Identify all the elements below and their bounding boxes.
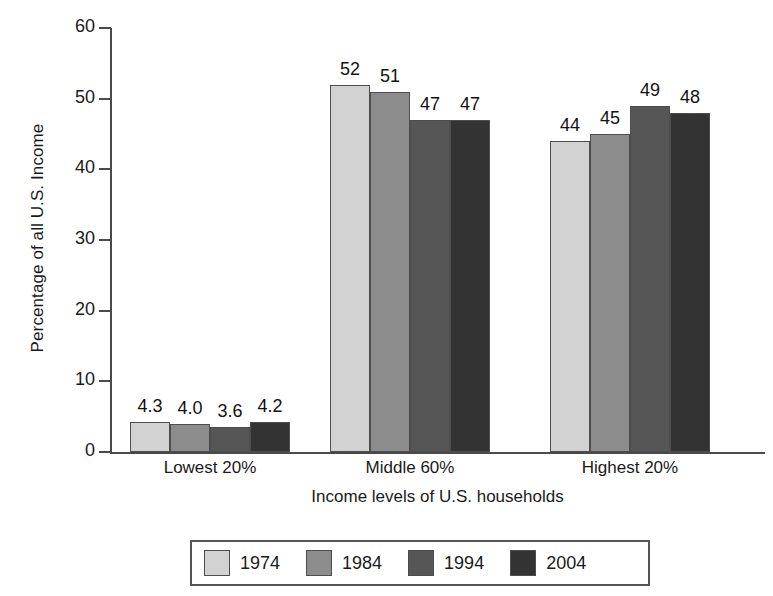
bar <box>630 106 670 452</box>
y-axis-tick <box>99 168 111 170</box>
y-axis-tick-label: 40 <box>35 157 95 178</box>
y-axis-tick-label: 0 <box>35 440 95 461</box>
legend-label: 1994 <box>444 553 484 574</box>
y-axis-tick-label: 30 <box>35 228 95 249</box>
legend-item: 1984 <box>306 550 382 576</box>
y-axis-tick <box>99 380 111 382</box>
bar <box>130 422 170 452</box>
y-axis-tick-label: 10 <box>35 369 95 390</box>
bar <box>590 134 630 452</box>
x-axis-line <box>110 452 765 454</box>
category-label: Lowest 20% <box>120 458 300 478</box>
bar-chart: Percentage of all U.S. Income 0102030405… <box>0 0 773 596</box>
y-axis-tick-label: 60 <box>35 16 95 37</box>
y-axis-tick <box>99 98 111 100</box>
y-axis-tick-label: 50 <box>35 87 95 108</box>
legend-label: 1974 <box>240 553 280 574</box>
bar <box>370 92 410 452</box>
bar <box>170 424 210 452</box>
legend-swatch <box>408 550 434 576</box>
bar <box>410 120 450 452</box>
bar-value-label: 47 <box>444 94 496 115</box>
x-axis-title: Income levels of U.S. households <box>110 487 765 507</box>
y-axis-tick <box>99 310 111 312</box>
bar <box>450 120 490 452</box>
legend-swatch <box>204 550 230 576</box>
bar-value-label: 51 <box>364 66 416 87</box>
bar-value-label: 45 <box>584 108 636 129</box>
legend-label: 2004 <box>546 553 586 574</box>
legend-item: 1994 <box>408 550 484 576</box>
legend-swatch <box>306 550 332 576</box>
chart-legend: 1974198419942004 <box>190 540 650 586</box>
category-label: Middle 60% <box>320 458 500 478</box>
bar <box>550 141 590 452</box>
bar-value-label: 4.2 <box>244 396 296 417</box>
y-axis-tick-label: 20 <box>35 299 95 320</box>
legend-swatch <box>510 550 536 576</box>
legend-label: 1984 <box>342 553 382 574</box>
legend-item: 2004 <box>510 550 586 576</box>
bar <box>330 85 370 452</box>
y-axis-tick <box>99 239 111 241</box>
bar <box>670 113 710 452</box>
category-label: Highest 20% <box>540 458 720 478</box>
legend-item: 1974 <box>204 550 280 576</box>
bar <box>250 422 290 452</box>
bar-value-label: 48 <box>664 87 716 108</box>
bar <box>210 427 250 452</box>
y-axis-tick <box>99 27 111 29</box>
